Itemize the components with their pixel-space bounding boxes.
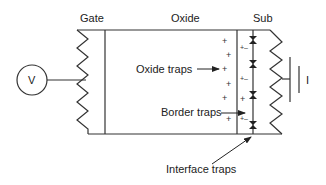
interface-trap-icon — [249, 60, 257, 68]
svg-text:+–: +– — [240, 75, 248, 82]
border-traps-annotation: Border traps — [161, 106, 245, 118]
oxide-trap-charges: + + + + + + — [222, 36, 231, 124]
interface-trap-icon — [249, 121, 257, 129]
svg-text:+: + — [226, 79, 231, 89]
svg-text:+: + — [222, 64, 227, 74]
interface-trap-icon — [249, 91, 257, 99]
ground-icon: I — [282, 57, 309, 102]
ground-label: I — [306, 74, 309, 86]
svg-text:+–: +– — [240, 44, 248, 51]
oxide-traps-label: Oxide traps — [136, 63, 193, 75]
svg-text:+–: +– — [240, 115, 248, 122]
svg-text:+: + — [226, 114, 231, 124]
interface-traps-annotation: Interface traps — [166, 137, 251, 175]
voltage-source: V — [17, 65, 86, 95]
mos-trap-diagram: Gate Oxide Sub V + + + + + + +– +– + +– — [0, 0, 326, 185]
substrate-label: Sub — [253, 12, 273, 24]
oxide-traps-annotation: Oxide traps — [136, 63, 219, 75]
interface-traps-line — [249, 30, 257, 134]
interface-traps-label: Interface traps — [166, 163, 237, 175]
svg-text:+: + — [222, 93, 227, 103]
substrate-electrode — [270, 30, 282, 134]
voltage-source-label: V — [28, 74, 36, 86]
svg-text:+: + — [240, 94, 245, 104]
svg-text:+: + — [226, 50, 231, 60]
interface-trap-icon — [249, 36, 257, 44]
border-traps-label: Border traps — [161, 106, 222, 118]
arrow-icon — [212, 137, 251, 164]
gate-electrode — [77, 30, 88, 134]
oxide-label: Oxide — [171, 12, 200, 24]
gate-label: Gate — [80, 12, 104, 24]
border-trap-charges: +– +– + +– — [240, 44, 248, 122]
svg-text:+: + — [222, 36, 227, 46]
oxide-region — [77, 30, 282, 134]
